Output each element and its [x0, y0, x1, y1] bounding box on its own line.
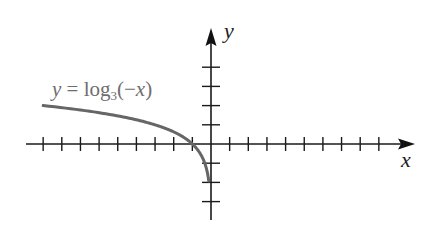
annotation-open: (−: [117, 77, 136, 101]
log-graph: [0, 0, 438, 234]
y-axis-label: y: [224, 18, 234, 44]
annotation-x: x: [136, 77, 145, 101]
annotation-y: y: [52, 77, 61, 101]
annotation-close: ): [145, 77, 152, 101]
y-axis: [202, 28, 220, 220]
x-axis-label: x: [401, 147, 411, 173]
annotation-eq: = log: [61, 77, 110, 101]
function-annotation: y = log3(−x): [52, 77, 152, 104]
x-axis: [26, 137, 415, 151]
